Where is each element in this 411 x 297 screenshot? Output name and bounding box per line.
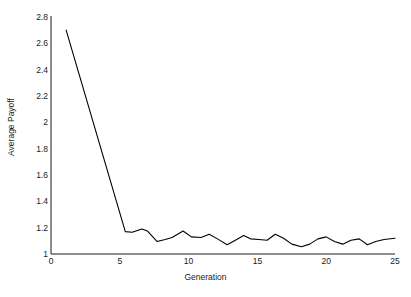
x-tick-label: 5: [117, 256, 122, 266]
x-tick-label: 20: [321, 256, 330, 266]
x-tick-label: 10: [184, 256, 193, 266]
data-series-line: [66, 30, 395, 247]
x-tick-label: 0: [49, 256, 54, 266]
x-tick-label: 15: [253, 256, 262, 266]
plot-area: [0, 0, 411, 297]
chart-figure: Average Payoff 11.21.41.61.822.22.42.62.…: [0, 0, 411, 297]
x-tick-label: 25: [390, 256, 399, 266]
